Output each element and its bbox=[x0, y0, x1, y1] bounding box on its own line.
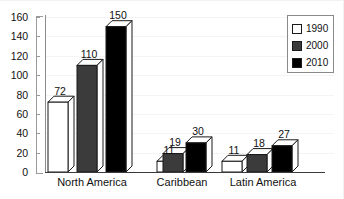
bar-north-america-2010[interactable] bbox=[106, 21, 132, 172]
bar-value-label: 110 bbox=[72, 49, 106, 60]
x-axis-label-caribbean: Caribbean bbox=[143, 176, 221, 189]
x-axis-label-north-america: North America bbox=[44, 176, 140, 189]
legend-label: 2000 bbox=[306, 41, 328, 51]
bar-north-america-2000[interactable] bbox=[77, 59, 103, 172]
bar-value-label: 30 bbox=[182, 126, 214, 137]
bar-latin-america-1990[interactable] bbox=[222, 155, 248, 172]
legend-item-2000[interactable]: 2000 bbox=[292, 37, 333, 54]
x-axis-label-latin-america: Latin America bbox=[218, 176, 308, 189]
legend-swatch-2000-icon bbox=[292, 41, 302, 51]
bar-value-label: 27 bbox=[268, 129, 300, 140]
legend-item-1990[interactable]: 1990 bbox=[292, 20, 333, 37]
legend-label: 2010 bbox=[306, 58, 328, 68]
bar-value-label: 19 bbox=[159, 137, 191, 148]
bar-latin-america-2000[interactable] bbox=[247, 149, 273, 172]
legend-item-2010[interactable]: 2010 bbox=[292, 54, 333, 71]
bar-value-label: 150 bbox=[101, 10, 135, 21]
legend: 1990 2000 2010 bbox=[287, 15, 334, 73]
x-axis-line bbox=[45, 172, 325, 173]
legend-label: 1990 bbox=[306, 24, 328, 34]
bar-latin-america-2010[interactable] bbox=[272, 140, 298, 172]
bar-value-label: 72 bbox=[44, 86, 76, 97]
legend-swatch-2010-icon bbox=[292, 58, 302, 68]
legend-swatch-1990-icon bbox=[292, 24, 302, 34]
bar-north-america-1990[interactable] bbox=[48, 96, 74, 172]
bar-chart: 160 140 120 100 80 60 40 20 0 bbox=[0, 0, 344, 199]
